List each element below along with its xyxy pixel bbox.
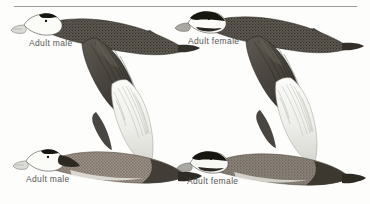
figure-top-left-adult-male <box>11 13 200 124</box>
caption-top-left: Adult male <box>29 38 73 48</box>
caption-bottom-right: Adult female <box>187 176 238 186</box>
caption-bottom-left: Adult male <box>26 174 70 184</box>
underwing-bottom-right <box>275 78 317 164</box>
figure-bottom-left-adult-male <box>13 112 202 183</box>
caption-top-right: Adult female <box>188 36 239 46</box>
bird-illustration-plate: Adult male Adult female Adult male Adult… <box>0 0 370 204</box>
figure-bottom-right-adult-female <box>177 110 366 185</box>
figure-top-right-adult-female <box>175 11 364 122</box>
